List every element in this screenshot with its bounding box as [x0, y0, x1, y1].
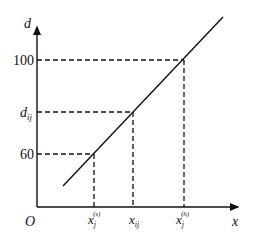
- linear-relation-diagram: d x O 100 dij 60 xj(s) xij xj(h): [0, 0, 258, 240]
- x-axis-label: x: [231, 214, 239, 229]
- x-tick-xij: xij: [128, 212, 140, 229]
- y-tick-100: 100: [13, 53, 34, 68]
- x-tick-xh: xj(h): [175, 210, 190, 229]
- x-tick-xs: xj(s): [87, 210, 101, 229]
- y-axis-label: d: [24, 16, 32, 31]
- y-tick-dij: dij: [20, 105, 33, 122]
- origin-label: O: [25, 214, 35, 229]
- y-tick-60: 60: [20, 147, 34, 162]
- relation-line: [63, 17, 223, 186]
